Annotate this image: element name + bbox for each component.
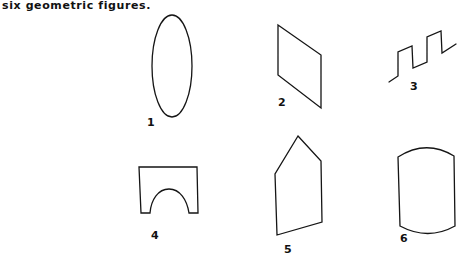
figure-4-arch-block [139, 167, 198, 213]
figure-6-barrel [398, 148, 455, 234]
figure-6-label: 6 [400, 232, 408, 245]
figure-3-zigzag [389, 31, 456, 82]
figure-3-label: 3 [410, 80, 418, 93]
figure-1-ellipse [152, 15, 192, 117]
figure-4-label: 4 [151, 229, 159, 242]
figure-1-label: 1 [147, 116, 155, 129]
figures-canvas [0, 0, 471, 269]
figure-2-label: 2 [278, 96, 286, 109]
figure-5-pentagon [275, 136, 322, 235]
figure-5-label: 5 [284, 243, 292, 256]
